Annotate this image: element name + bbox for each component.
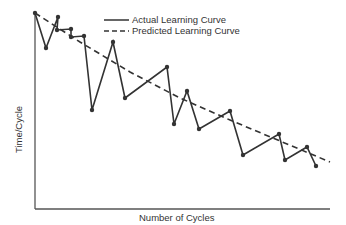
- data-point-marker: [172, 122, 176, 126]
- data-point-marker: [90, 108, 94, 112]
- data-point-marker: [241, 153, 245, 157]
- legend-lines: [104, 20, 129, 31]
- data-point-marker: [277, 132, 281, 136]
- x-axis-label: Number of Cycles: [139, 212, 215, 223]
- data-point-marker: [305, 145, 309, 149]
- data-point-marker: [228, 109, 232, 113]
- data-point-marker: [283, 158, 287, 162]
- data-point-marker: [55, 28, 59, 32]
- data-point-marker: [82, 34, 86, 38]
- data-point-marker: [165, 65, 169, 69]
- data-point-marker: [56, 15, 60, 19]
- data-point-marker: [185, 89, 189, 93]
- data-point-marker: [314, 164, 318, 168]
- data-point-marker: [69, 27, 73, 31]
- data-point-marker: [69, 35, 73, 39]
- y-axis-label: Time/Cycle: [13, 106, 24, 153]
- legend-actual-label: Actual Learning Curve: [132, 14, 226, 25]
- data-point-marker: [33, 11, 37, 15]
- data-point-marker: [111, 40, 115, 44]
- data-point-marker: [197, 127, 201, 131]
- legend-predicted-label: Predicted Learning Curve: [132, 25, 240, 36]
- data-point-marker: [123, 96, 127, 100]
- data-point-marker: [44, 46, 48, 50]
